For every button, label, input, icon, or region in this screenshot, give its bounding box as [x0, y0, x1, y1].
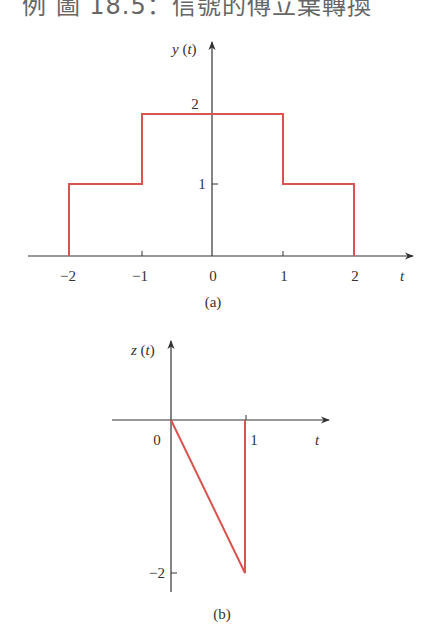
xlabel-b: t [315, 432, 320, 448]
ylabel-a: y (t) [170, 41, 197, 58]
x-tick-label-2: 2 [351, 268, 359, 284]
figure-canvas: y (t) 2 1 −2 −1 0 1 2 t (a) z (t) 0 1 t … [0, 0, 437, 638]
x-tick-label-1-b: 1 [250, 432, 258, 448]
y-tick-label-neg2: −2 [149, 565, 165, 581]
x-tick-label-neg1: −1 [132, 268, 148, 284]
x-tick-label-0-b: 0 [153, 432, 161, 448]
caption-a: (a) [205, 294, 222, 311]
plot-b: z (t) 0 1 t −2 (b) [112, 341, 329, 623]
x-tick-label-1: 1 [280, 268, 288, 284]
caption-b: (b) [213, 606, 231, 623]
ylabel-b: z (t) [130, 342, 155, 359]
y-tick-label-1: 1 [198, 176, 206, 192]
signal-z-trace [171, 420, 245, 573]
y-tick-label-2: 2 [191, 96, 199, 112]
x-tick-label-0: 0 [209, 268, 217, 284]
x-tick-label-neg2: −2 [60, 268, 76, 284]
plot-a: y (t) 2 1 −2 −1 0 1 2 t (a) [28, 41, 413, 311]
xlabel-a: t [400, 268, 405, 284]
